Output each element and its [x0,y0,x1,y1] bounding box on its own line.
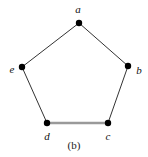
graph-canvas [0,0,148,157]
vertex-label-e: e [10,64,15,75]
graph-edge-a-b [79,23,128,66]
vertex-label-b: b [136,65,142,76]
vertex-layer [19,20,131,126]
graph-edge-e-a [22,23,79,67]
graph-vertex-b [125,63,131,69]
graph-vertex-e [19,64,25,70]
graph-vertex-a [76,20,82,26]
graph-vertex-d [44,120,50,126]
graph-vertex-c [105,120,111,126]
figure-caption: (b) [0,139,148,152]
graph-edge-d-e [22,67,47,123]
edge-layer [22,23,128,123]
graph-edge-b-c [108,66,128,123]
pentagon-graph-figure: abcde (b) [0,0,148,157]
vertex-label-a: a [75,4,81,15]
